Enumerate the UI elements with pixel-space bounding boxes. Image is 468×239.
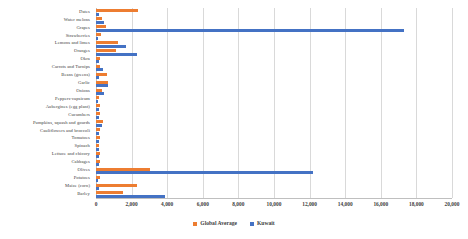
bar-kuwait: [96, 92, 104, 95]
bar-kuwait: [96, 116, 99, 119]
bar-kuwait: [96, 84, 108, 87]
bar-kuwait: [96, 179, 98, 182]
bar-global-average: [96, 57, 100, 60]
bar-rows: [96, 8, 452, 198]
y-axis-label: Dates: [79, 9, 90, 14]
bar-global-average: [96, 168, 150, 171]
y-axis-label: Lettuce and chicory: [52, 151, 90, 156]
legend-entry[interactable]: Kuwait: [250, 220, 275, 227]
bar-kuwait: [96, 60, 99, 63]
bar-global-average: [96, 81, 108, 84]
bar-kuwait: [96, 68, 103, 71]
bar-global-average: [96, 128, 100, 131]
bar-kuwait: [96, 132, 99, 135]
y-axis-label: Peppers-capsicum: [55, 96, 90, 101]
gridline-20000: [452, 8, 453, 198]
legend-swatch-icon: [193, 222, 197, 226]
bar-kuwait: [96, 13, 99, 16]
bar-global-average: [96, 41, 118, 44]
bar-kuwait: [96, 53, 137, 56]
bar-kuwait: [96, 76, 99, 79]
bar-global-average: [96, 112, 100, 115]
bar-global-average: [96, 33, 101, 36]
bar-global-average: [96, 136, 100, 139]
horizontal-bar-chart: DatesWater melonsGrapesStrawberriesLemon…: [0, 0, 468, 239]
y-axis-label: Oranges: [74, 48, 90, 53]
bar-kuwait: [96, 140, 99, 143]
chart-legend: Global AverageKuwait: [0, 220, 468, 227]
y-axis-label: Aubergines (egg plant): [46, 104, 90, 109]
y-axis-label: Onions: [76, 88, 90, 93]
x-tick-label: 4,000: [161, 200, 173, 209]
bar-global-average: [96, 184, 137, 187]
bar-global-average: [96, 49, 116, 52]
bar-kuwait: [96, 124, 102, 127]
y-axis-label: Olives: [77, 167, 90, 172]
y-axis-label: Carrots and Turnips: [52, 64, 90, 69]
y-axis-label: Cauliflowers and broccoli: [40, 128, 90, 133]
y-axis-label: Potatoes: [74, 175, 90, 180]
y-axis-label: Water melons: [64, 17, 90, 22]
bar-kuwait: [96, 29, 404, 32]
y-axis-label: Cucumbers: [68, 112, 90, 117]
y-axis-category-labels: DatesWater melonsGrapesStrawberriesLemon…: [0, 8, 93, 198]
bar-kuwait: [96, 100, 98, 103]
y-axis-label: Tomatoes: [71, 135, 90, 140]
y-axis-label: Beans (greens): [61, 72, 90, 77]
bar-global-average: [96, 120, 103, 123]
y-axis-label: Cabbages: [71, 159, 90, 164]
bar-kuwait: [96, 45, 126, 48]
bar-kuwait: [96, 37, 98, 40]
bar-global-average: [96, 73, 107, 76]
x-tick-label: 18,000: [409, 200, 424, 209]
bar-kuwait: [96, 171, 313, 174]
x-tick-label: 8,000: [232, 200, 244, 209]
y-axis-label: Strawberries: [66, 33, 90, 38]
legend-entry[interactable]: Global Average: [193, 220, 237, 227]
x-tick-label: 2,000: [126, 200, 138, 209]
y-axis-label: Lemons and limes: [55, 40, 90, 45]
x-tick-label: 12,000: [302, 200, 317, 209]
bar-global-average: [96, 104, 100, 107]
y-axis-label: Maize (corn): [65, 183, 90, 188]
legend-label: Kuwait: [257, 220, 275, 227]
x-tick-label: 10,000: [267, 200, 282, 209]
y-axis-label: Spinach: [75, 143, 90, 148]
x-tick-label: 6,000: [197, 200, 209, 209]
legend-label: Global Average: [200, 220, 237, 227]
bar-global-average: [96, 191, 123, 194]
bar-global-average: [96, 144, 99, 147]
bar-kuwait: [96, 187, 99, 190]
y-axis-label: Garlic: [78, 80, 90, 85]
x-axis-tick-labels: 02,0004,0006,0008,00010,00012,00014,0001…: [0, 200, 468, 212]
y-axis-label: Pumpkins, squash and gourds: [33, 120, 90, 125]
plot-area: [96, 8, 452, 198]
x-axis-line: [96, 198, 452, 199]
y-axis-label: Barley: [77, 191, 90, 196]
bar-global-average: [96, 160, 100, 163]
y-axis-label: Okra: [80, 56, 90, 61]
bar-kuwait: [96, 21, 104, 24]
y-axis-label: Grapes: [76, 25, 90, 30]
bar-global-average: [96, 176, 100, 179]
bar-global-average: [96, 25, 106, 28]
bar-kuwait: [96, 163, 99, 166]
x-tick-label: 20,000: [445, 200, 460, 209]
bar-global-average: [96, 17, 102, 20]
x-tick-label: 14,000: [338, 200, 353, 209]
bar-kuwait: [96, 108, 99, 111]
bar-global-average: [96, 65, 100, 68]
bar-global-average: [96, 9, 138, 12]
x-tick-label: 16,000: [373, 200, 388, 209]
bar-global-average: [96, 96, 99, 99]
bar-kuwait: [96, 148, 99, 151]
legend-swatch-icon: [250, 222, 254, 226]
bar-global-average: [96, 89, 102, 92]
x-tick-label: 0: [95, 200, 98, 209]
bar-global-average: [96, 152, 100, 155]
bar-kuwait: [96, 155, 99, 158]
